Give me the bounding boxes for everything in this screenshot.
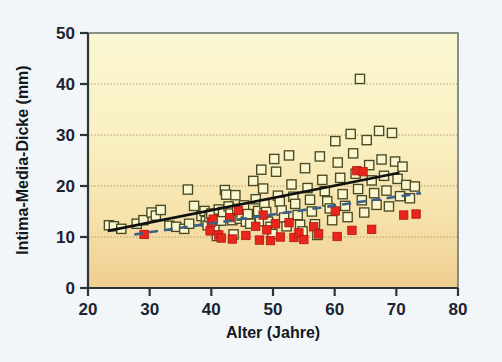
x-tick-label-30: 30 [140,300,159,319]
data-point-red-25 [348,226,356,234]
x-tick-label-80: 80 [449,300,468,319]
data-point-red-10 [252,222,260,230]
data-point-red-17 [285,219,293,227]
data-point-open-102 [393,174,402,183]
data-point-red-23 [331,207,339,215]
y-tick-label-40: 40 [56,75,75,94]
data-point-red-20 [300,235,308,243]
x-tick-label-50: 50 [264,300,283,319]
data-point-red-1 [206,227,214,235]
data-point-red-29 [400,211,408,219]
data-point-red-24 [333,232,341,240]
y-axis-title: Intima-Media-Dicke (mm) [14,65,31,254]
data-point-open-54 [275,197,284,206]
data-point-open-76 [328,216,337,225]
data-point-open-89 [360,208,369,217]
data-point-red-16 [276,233,284,241]
data-point-red-22 [314,230,322,238]
data-point-open-80 [338,190,347,199]
data-point-red-8 [234,206,242,214]
data-point-open-51 [270,154,279,163]
figure-container: 01020304050 20304050607080 Intima-Media-… [0,0,502,362]
data-point-open-96 [377,155,386,164]
data-point-red-15 [271,220,279,228]
data-point-open-71 [315,152,324,161]
data-point-open-82 [343,213,352,222]
data-point-open-93 [370,189,379,198]
data-point-open-105 [402,180,411,189]
data-point-red-7 [228,235,236,243]
data-point-open-95 [374,126,383,135]
data-point-red-27 [359,168,367,176]
data-point-open-13 [189,201,198,210]
data-point-open-104 [398,162,407,171]
data-point-open-59 [287,180,296,189]
y-tick-label-0: 0 [66,279,75,298]
x-tick-label-70: 70 [387,300,406,319]
data-point-open-90 [362,136,371,145]
data-point-red-11 [255,236,263,244]
x-axis-title: Alter (Jahre) [226,324,320,341]
data-point-open-86 [354,184,363,193]
data-point-open-32 [231,191,240,200]
y-tick-label-30: 30 [56,126,75,145]
data-point-red-30 [412,210,420,218]
data-point-open-77 [331,137,340,146]
data-point-open-87 [355,74,364,83]
data-point-open-94 [372,200,381,209]
data-point-open-65 [300,164,309,173]
y-tick-label-50: 50 [56,24,75,43]
x-tick-label-40: 40 [202,300,221,319]
data-point-open-40 [249,176,258,185]
data-point-open-100 [387,128,396,137]
data-point-open-72 [318,175,327,184]
data-point-open-44 [257,165,266,174]
data-point-open-98 [382,186,391,195]
data-point-red-5 [217,234,225,242]
data-point-red-13 [263,226,271,234]
data-point-open-27 [222,190,231,199]
data-point-red-14 [266,236,274,244]
x-tick-label-60: 60 [325,300,344,319]
data-point-open-62 [293,210,302,219]
data-point-open-99 [384,202,393,211]
data-point-open-45 [259,184,268,193]
data-point-open-83 [346,129,355,138]
y-tick-label-20: 20 [56,177,75,196]
data-point-open-67 [305,195,314,204]
y-tick-label-10: 10 [56,228,75,247]
scatter-chart: 01020304050 20304050607080 Intima-Media-… [0,0,502,362]
data-point-open-79 [336,173,345,182]
data-point-open-11 [183,185,192,194]
data-point-red-28 [367,225,375,233]
data-point-open-61 [291,199,300,208]
data-point-red-9 [242,231,250,239]
data-point-open-7 [156,205,165,214]
data-point-open-78 [333,158,342,167]
data-point-open-58 [284,151,293,160]
data-point-open-52 [271,167,280,176]
data-point-open-107 [410,182,419,191]
x-tick-label-20: 20 [79,300,98,319]
data-point-open-84 [349,149,358,158]
